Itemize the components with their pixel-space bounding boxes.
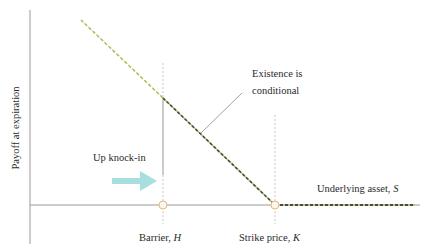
x-axis-label: Underlying asset, S: [317, 183, 399, 194]
strike-label: Strike price, K: [239, 232, 301, 243]
payoff-diagram: Payoff at expiration Existence is condit…: [0, 0, 432, 252]
y-axis-label: Payoff at expiration: [10, 86, 21, 170]
barrier-label: Barrier, H: [139, 232, 183, 243]
barrier-marker: [159, 201, 167, 209]
knock-in-label: Up knock-in: [93, 152, 147, 163]
strike-marker: [271, 201, 279, 209]
annotation-leader: [201, 93, 242, 133]
annotation-line2: conditional: [252, 85, 299, 96]
annotation-line1: Existence is: [252, 68, 302, 79]
knock-in-arrow-icon: [112, 171, 157, 191]
